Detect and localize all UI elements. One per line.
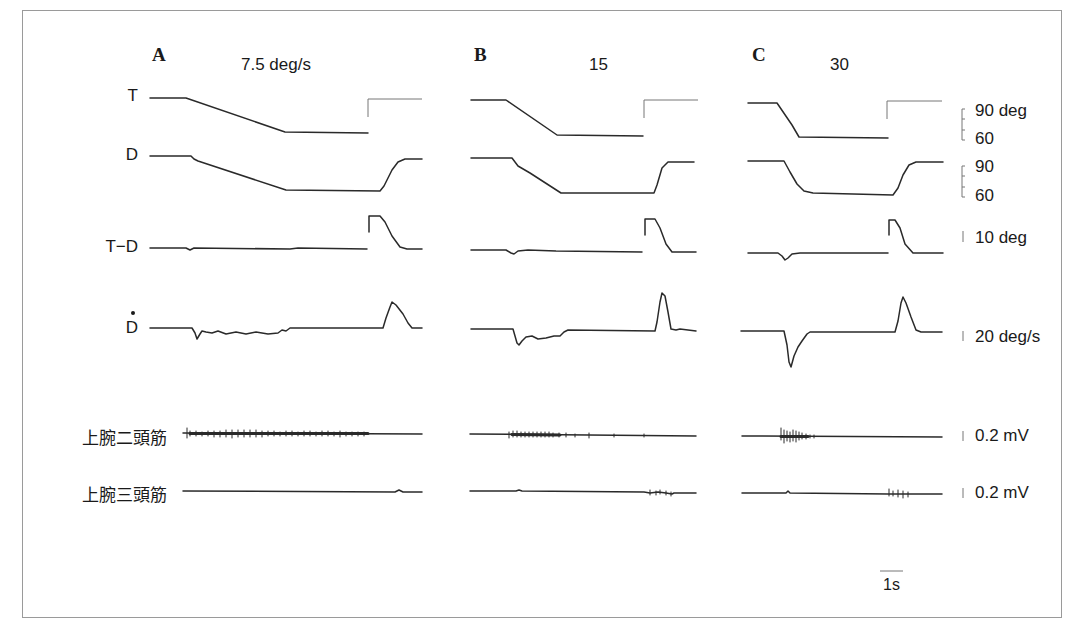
scale-bars	[880, 109, 965, 571]
panel-a-target-trace	[150, 98, 368, 133]
target-angle-scale-bar	[962, 109, 965, 140]
panel-c-error-trace	[748, 253, 888, 260]
panel-a-triceps-emg	[183, 490, 422, 492]
panel-b-biceps-emg	[470, 434, 696, 436]
panel-c-target-step	[887, 101, 942, 119]
panel-c-biceps-emg	[742, 436, 942, 437]
panel-b-error-trace	[471, 250, 642, 254]
panel-b-triceps-emg	[470, 490, 696, 494]
panel-a-display-trace	[150, 156, 422, 191]
panel-c-triceps-emg	[742, 491, 942, 494]
panel-b-target-step	[644, 100, 698, 118]
panel-b-traces	[470, 100, 696, 494]
display-angle-scale-bar	[962, 166, 965, 197]
panel-c-display-trace	[748, 161, 943, 195]
panel-a-error-return	[369, 216, 422, 249]
panel-c-traces	[741, 103, 943, 494]
panel-c-velocity-trace	[741, 297, 942, 367]
panel-c-target-trace	[748, 103, 888, 138]
panel-b-target-trace	[471, 100, 643, 136]
panel-c-error-return	[889, 220, 943, 253]
panel-b-error-return	[645, 219, 696, 252]
trace-plot	[0, 0, 1076, 628]
panel-b-display-trace	[471, 158, 694, 193]
panel-b-velocity-trace	[471, 293, 696, 345]
velocity-dot-marker	[131, 311, 135, 315]
panel-a-biceps-burst	[187, 428, 368, 438]
panel-a-error-trace	[150, 248, 367, 250]
panel-a-target-step	[368, 99, 422, 117]
target-step-markers	[368, 99, 942, 119]
panel-c-biceps-burst	[781, 428, 814, 443]
panel-a-velocity-trace	[150, 302, 422, 339]
